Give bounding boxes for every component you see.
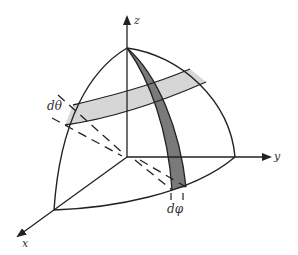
dphi-label: dφ [167, 202, 184, 216]
spherical-coordinates-diagram: z y x dθ dφ [0, 0, 298, 255]
y-axis-label: y [273, 150, 281, 163]
phi-band [127, 48, 186, 190]
z-axis-label: z [133, 14, 140, 27]
theta-band [65, 69, 206, 125]
dtheta-label: dθ [47, 99, 63, 113]
x-axis [18, 157, 127, 236]
x-axis-label: x [22, 237, 29, 250]
dphi-ticks [171, 193, 183, 200]
